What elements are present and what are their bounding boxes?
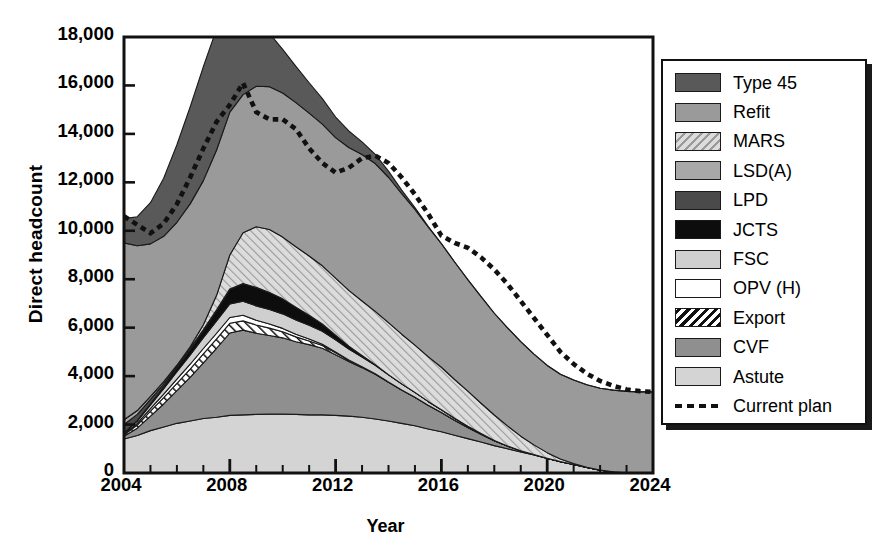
y-axis-tick-label: 14,000	[14, 122, 114, 141]
chart-legend: Type 45RefitMARSLSD(A)LPDJCTSFSCOPV (H)E…	[661, 59, 867, 425]
legend-swatch-icon	[675, 367, 721, 386]
legend-swatch-icon	[675, 103, 721, 122]
legend-item[interactable]: MARS	[675, 127, 865, 156]
legend-item-label: FSC	[733, 250, 769, 268]
y-axis-tick-label: 12,000	[14, 170, 114, 189]
y-axis-tick-label: 10,000	[14, 219, 114, 238]
legend-item-label: Refit	[733, 103, 770, 121]
legend-item[interactable]: Refit	[675, 97, 865, 126]
legend-dotted-line-icon	[675, 396, 721, 415]
y-axis-tick-label: 2,000	[14, 413, 114, 432]
legend-item[interactable]: LSD(A)	[675, 156, 865, 185]
x-axis-tick-label: 2016	[393, 476, 483, 495]
legend-swatch-icon	[675, 161, 721, 180]
legend-swatch-icon	[675, 308, 721, 327]
legend-swatch-icon	[675, 338, 721, 357]
x-axis-tick-label: 2020	[499, 476, 589, 495]
legend-item-label: Type 45	[733, 74, 797, 92]
legend-item-label: JCTS	[733, 221, 778, 239]
legend-item-label: OPV (H)	[733, 279, 801, 297]
legend-item-label: LSD(A)	[733, 162, 792, 180]
legend-item[interactable]: Astute	[675, 362, 865, 391]
legend-swatch-icon	[675, 279, 721, 298]
legend-item[interactable]: JCTS	[675, 215, 865, 244]
legend-item-label: LPD	[733, 191, 768, 209]
chart-figure: Direct headcount 02,0004,0006,0008,00010…	[0, 0, 884, 560]
y-axis-tick-label: 16,000	[14, 73, 114, 92]
legend-swatch-icon	[675, 132, 721, 151]
legend-item-label: Export	[733, 309, 785, 327]
legend-swatch-icon	[675, 250, 721, 269]
legend-item-label: MARS	[733, 132, 785, 150]
legend-item[interactable]: OPV (H)	[675, 274, 865, 303]
x-axis-title: Year	[121, 516, 650, 537]
x-axis-tick-label: 2008	[182, 476, 272, 495]
legend-swatch-icon	[675, 220, 721, 239]
y-axis-tick-label: 6,000	[14, 316, 114, 335]
legend-item[interactable]: Current plan	[675, 391, 865, 420]
legend-swatch-icon	[675, 73, 721, 92]
legend-swatch-icon	[675, 191, 721, 210]
x-axis-tick-label: 2024	[605, 476, 695, 495]
legend-item-label: Current plan	[733, 397, 832, 415]
y-axis-tick-label: 18,000	[14, 25, 114, 44]
legend-item[interactable]: FSC	[675, 244, 865, 273]
x-axis-tick-label: 2004	[76, 476, 166, 495]
y-axis-tick-label: 8,000	[14, 267, 114, 286]
legend-item-label: CVF	[733, 338, 769, 356]
x-axis-tick-label: 2012	[288, 476, 378, 495]
legend-item[interactable]: LPD	[675, 186, 865, 215]
x-axis-tick-labels: 200420082012201620202024	[0, 476, 884, 504]
y-axis-tick-label: 4,000	[14, 364, 114, 383]
legend-item-label: Astute	[733, 368, 784, 386]
legend-item[interactable]: Type 45	[675, 68, 865, 97]
plot-area	[121, 34, 650, 470]
legend-item[interactable]: CVF	[675, 333, 865, 362]
legend-item[interactable]: Export	[675, 303, 865, 332]
